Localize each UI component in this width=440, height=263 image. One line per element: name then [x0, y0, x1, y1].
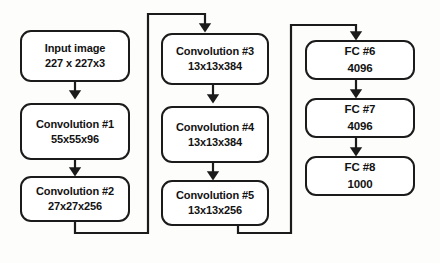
node-convolution-4-line1: Convolution #4	[176, 120, 254, 135]
node-convolution-5-line2: 13x13x256	[188, 203, 242, 218]
architecture-diagram: Input image 227 x 227x3 Convolution #1 5…	[0, 0, 440, 263]
node-fc-8-line2: 1000	[347, 177, 372, 192]
node-convolution-1-line1: Convolution #1	[36, 117, 114, 132]
node-convolution-2-line2: 27x27x256	[48, 199, 102, 214]
node-convolution-4[interactable]: Convolution #4 13x13x384	[161, 106, 269, 163]
node-convolution-3-line1: Convolution #3	[176, 44, 254, 59]
node-input-image[interactable]: Input image 227 x 227x3	[20, 30, 130, 82]
node-convolution-4-line2: 13x13x384	[188, 135, 242, 150]
node-convolution-5-line1: Convolution #5	[176, 188, 254, 203]
node-fc-8[interactable]: FC #8 1000	[305, 156, 415, 196]
node-fc-6-line2: 4096	[347, 61, 372, 76]
node-fc-7-line2: 4096	[347, 119, 372, 134]
node-input-image-line1: Input image	[45, 41, 106, 56]
node-fc-7-line1: FC #7	[345, 102, 376, 117]
node-convolution-1[interactable]: Convolution #1 55x55x96	[20, 103, 130, 160]
node-convolution-2-line1: Convolution #2	[36, 184, 114, 199]
node-input-image-line2: 227 x 227x3	[45, 56, 105, 71]
node-fc-8-line1: FC #8	[345, 160, 376, 175]
node-fc-6[interactable]: FC #6 4096	[305, 40, 415, 80]
node-fc-6-line1: FC #6	[345, 44, 376, 59]
node-convolution-3[interactable]: Convolution #3 13x13x384	[161, 33, 269, 85]
node-convolution-5[interactable]: Convolution #5 13x13x256	[161, 180, 269, 226]
node-fc-7[interactable]: FC #7 4096	[305, 98, 415, 138]
node-convolution-2[interactable]: Convolution #2 27x27x256	[20, 176, 130, 222]
node-convolution-3-line2: 13x13x384	[188, 59, 242, 74]
node-convolution-1-line2: 55x55x96	[51, 132, 99, 147]
